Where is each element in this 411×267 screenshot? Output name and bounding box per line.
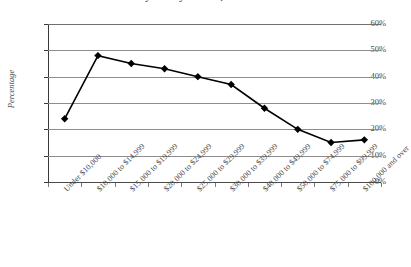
x-axis-label-group: Under $10,000$10,000 to $14,999$15,000 t… [48, 183, 381, 267]
x-axis-tick-mark [381, 183, 382, 187]
data-point-marker [94, 52, 101, 59]
data-point-marker [361, 136, 368, 143]
data-point-marker [128, 60, 135, 67]
data-point-marker [61, 115, 68, 122]
data-point-marker [294, 126, 301, 133]
chart-title: by Family Income, 2009 [0, 0, 386, 2]
data-point-marker [194, 73, 201, 80]
data-point-marker [161, 65, 168, 72]
series-line [65, 56, 365, 143]
data-point-marker [327, 139, 334, 146]
y-axis-title: Percentage [6, 52, 16, 126]
